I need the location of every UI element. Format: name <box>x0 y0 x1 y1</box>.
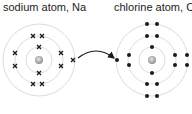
na-electrons <box>13 34 75 86</box>
cl-nucleus <box>148 56 156 64</box>
na-nucleus <box>35 56 43 64</box>
atom-diagram <box>0 0 192 114</box>
chlorine-atom <box>115 22 189 98</box>
sodium-atom <box>3 24 75 96</box>
transfer-arrow-icon <box>78 51 114 58</box>
